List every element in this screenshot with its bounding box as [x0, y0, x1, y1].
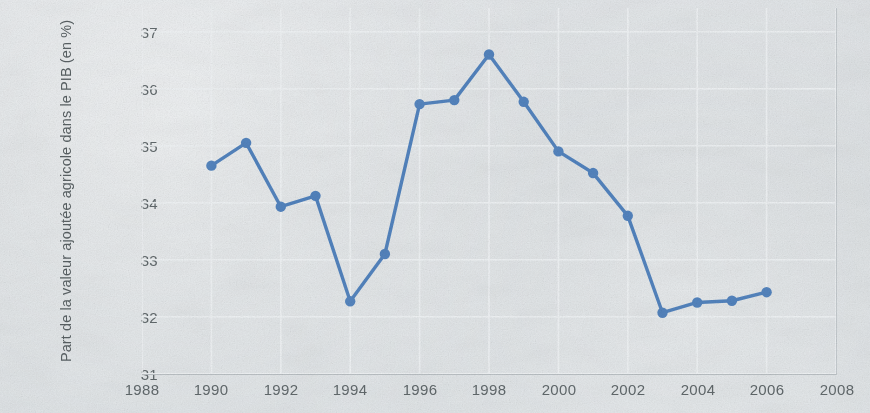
data-point: [484, 49, 494, 59]
data-point: [345, 296, 355, 306]
data-point: [727, 296, 737, 306]
data-point: [449, 95, 459, 105]
x-tick-label-2006: 2006: [737, 381, 797, 398]
x-tick-label-1990: 1990: [181, 381, 241, 398]
y-axis-title-text: Part de la valeur ajoutée agricole dans …: [56, 20, 77, 362]
x-tick-label-2002: 2002: [598, 381, 658, 398]
data-point: [206, 160, 216, 170]
gridlines: [142, 8, 836, 374]
data-point: [761, 287, 771, 297]
chart-figure: Part de la valeur ajoutée agricole dans …: [0, 0, 870, 413]
x-tick-label-1988: 1988: [112, 381, 172, 398]
data-point: [414, 99, 424, 109]
data-point: [380, 249, 390, 259]
x-tick-label-1996: 1996: [390, 381, 450, 398]
data-point: [692, 297, 702, 307]
x-tick-label-1998: 1998: [459, 381, 519, 398]
data-point: [310, 191, 320, 201]
data-point: [623, 211, 633, 221]
data-point: [241, 138, 251, 148]
data-point: [588, 168, 598, 178]
plot-right-border: [836, 8, 837, 375]
data-point: [657, 308, 667, 318]
x-axis-line: [142, 374, 837, 375]
plot-area: [142, 8, 836, 374]
x-tick-label-1994: 1994: [320, 381, 380, 398]
y-axis-title: Part de la valeur ajoutée agricole dans …: [34, 8, 100, 374]
x-tick-label-1992: 1992: [251, 381, 311, 398]
x-tick-label-2004: 2004: [668, 381, 728, 398]
data-point: [519, 97, 529, 107]
x-tick-label-2008: 2008: [807, 381, 867, 398]
data-point: [276, 201, 286, 211]
x-tick-label-2000: 2000: [529, 381, 589, 398]
data-point: [553, 146, 563, 156]
